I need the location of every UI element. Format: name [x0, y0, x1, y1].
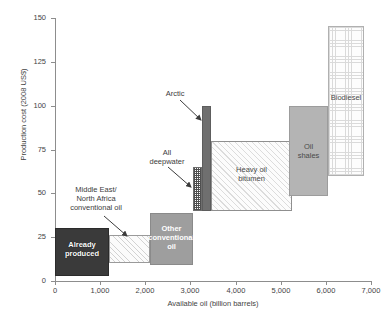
mena-line1: Middle East/ — [75, 185, 116, 194]
x-tick-6000 — [326, 281, 327, 285]
x-axis-title: Available oil (billion barrels) — [55, 299, 371, 308]
bar-arctic — [202, 106, 211, 211]
x-tick-label-0: 0 — [35, 287, 75, 295]
y-tick-label-0: 0 — [18, 277, 46, 285]
arctic-text: Arctic — [166, 89, 185, 98]
mena-line2: North Africa — [76, 194, 115, 203]
x-tick-5000 — [281, 281, 282, 285]
mena-line3: conventional oil — [70, 203, 122, 212]
y-tick-label-150: 150 — [18, 14, 46, 22]
x-tick-label-2000: 2,000 — [125, 287, 165, 295]
callout-mena: Middle East/ North Africa conventional o… — [54, 185, 138, 212]
arrow-deepwater — [168, 167, 191, 187]
x-tick-4000 — [236, 281, 237, 285]
x-tick-0 — [55, 281, 56, 285]
y-tick-label-25: 25 — [18, 233, 46, 241]
x-tick-2000 — [145, 281, 146, 285]
bar-already-produced — [55, 228, 109, 276]
x-tick-label-6000: 6,000 — [306, 287, 346, 295]
bar-biodiesel — [328, 26, 364, 176]
x-tick-1000 — [100, 281, 101, 285]
x-axis-line — [55, 281, 371, 282]
y-tick-75 — [51, 150, 55, 151]
bar-oil-shales — [289, 106, 328, 196]
x-tick-label-4000: 4,000 — [216, 287, 256, 295]
x-tick-label-3000: 3,000 — [170, 287, 210, 295]
callout-all-deepwater: All deepwater — [145, 148, 189, 166]
x-tick-label-5000: 5,000 — [261, 287, 301, 295]
deepwater-line2: deepwater — [149, 157, 184, 166]
y-tick-150 — [51, 18, 55, 19]
production-cost-chart: 150 125 100 75 50 25 0 0 1,000 2,000 3,0… — [0, 0, 385, 319]
callout-arctic: Arctic — [155, 89, 195, 98]
x-tick-7000 — [371, 281, 372, 285]
x-tick-label-7000: 7,000 — [351, 287, 385, 295]
bar-all-deepwater — [193, 167, 202, 211]
x-tick-label-1000: 1,000 — [80, 287, 120, 295]
y-axis-title: Production cost (2008 US$) — [19, 40, 28, 190]
bar-other-conventional-oil — [150, 213, 193, 265]
bar-mena-conventional-oil — [109, 235, 150, 263]
x-tick-3000 — [190, 281, 191, 285]
deepwater-line1: All — [163, 148, 171, 157]
y-tick-125 — [51, 62, 55, 63]
bar-heavy-oil-bitumen — [211, 141, 292, 211]
arrow-arctic — [180, 100, 201, 120]
y-tick-100 — [51, 106, 55, 107]
y-tick-label-50: 50 — [18, 189, 46, 197]
